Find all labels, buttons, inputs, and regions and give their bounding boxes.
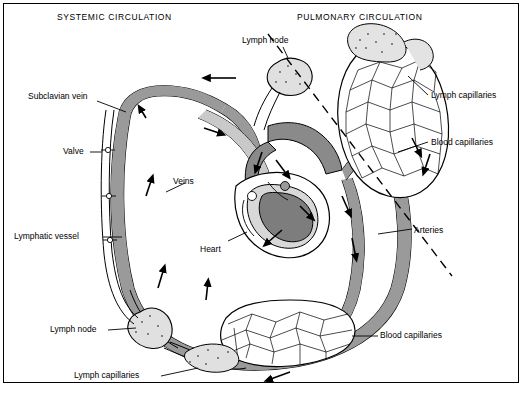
label-lymph-node-left: Lymph node: [50, 324, 96, 334]
label-veins: Veins: [173, 176, 194, 186]
label-arteries: Arteries: [414, 225, 443, 235]
lung-capillary-bed: [338, 24, 449, 198]
title-pulmonary-circulation: PULMONARY CIRCULATION: [297, 12, 422, 22]
lymph-node-top: [254, 58, 312, 130]
label-lymph-capillaries-right: Lymph capillaries: [431, 90, 496, 100]
figure-page: SYSTEMIC CIRCULATION PULMONARY CIRCULATI…: [0, 0, 525, 403]
circulation-diagram-artwork: [0, 0, 525, 403]
footer-strip: [0, 386, 525, 403]
label-blood-capillaries-bottom: Blood capillaries: [380, 330, 442, 340]
label-lymph-node-top: Lymph node: [242, 35, 288, 45]
label-lymph-capillaries-bottom: Lymph capillaries: [74, 370, 139, 380]
label-heart: Heart: [200, 244, 221, 254]
title-systemic-circulation: SYSTEMIC CIRCULATION: [57, 12, 172, 22]
label-subclavian-vein: Subclavian vein: [28, 91, 88, 101]
label-blood-capillaries-right: Blood capillaries: [431, 137, 493, 147]
label-valve: Valve: [63, 146, 84, 156]
label-lymphatic-vessel: Lymphatic vessel: [14, 231, 79, 241]
heart-organ: [235, 173, 330, 258]
